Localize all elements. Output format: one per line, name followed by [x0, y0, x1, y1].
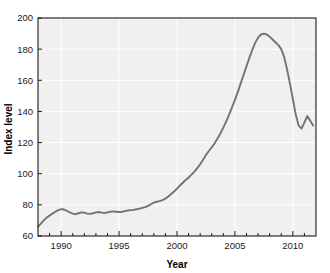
- y-tick-label: 200: [17, 12, 33, 23]
- x-axis-tick-labels: 19901995200020052010: [51, 240, 304, 251]
- y-tick-label: 120: [17, 137, 33, 148]
- y-axis-title: Index level: [3, 103, 14, 154]
- y-tick-label: 160: [17, 75, 33, 86]
- x-tick-label: 2005: [224, 240, 245, 251]
- y-tick-label: 140: [17, 106, 33, 117]
- x-axis-title: Year: [166, 259, 187, 270]
- y-tick-label: 80: [22, 199, 33, 210]
- x-tick-label: 2010: [282, 240, 303, 251]
- x-tick-label: 1990: [51, 240, 72, 251]
- y-tick-label: 100: [17, 168, 33, 179]
- x-tick-label: 2000: [166, 240, 187, 251]
- y-axis-tick-labels: 6080100120140160180200: [17, 12, 33, 241]
- chart-figure: 6080100120140160180200 19901995200020052…: [0, 0, 330, 273]
- x-tick-label: 1995: [109, 240, 130, 251]
- y-tick-label: 60: [22, 230, 33, 241]
- line-chart-svg: 6080100120140160180200 19901995200020052…: [0, 0, 330, 273]
- y-tick-label: 180: [17, 44, 33, 55]
